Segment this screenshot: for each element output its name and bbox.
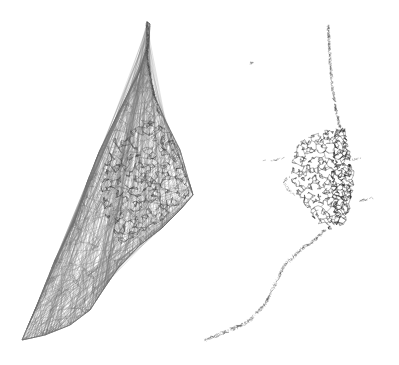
network-figure [0, 0, 399, 365]
mesh-diagram-canvas [0, 0, 399, 365]
triangulated-mesh-panel [22, 21, 193, 340]
pruned-network-panel [204, 25, 373, 342]
